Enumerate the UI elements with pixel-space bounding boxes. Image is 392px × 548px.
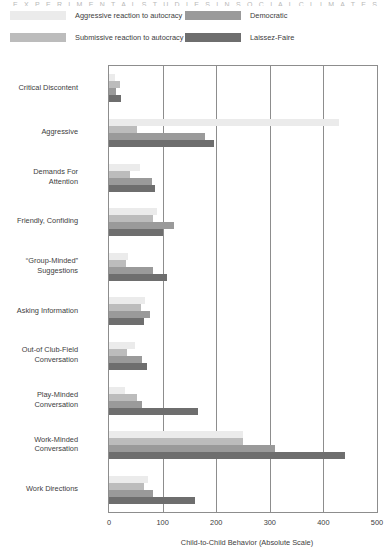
- bar-group: [109, 342, 377, 370]
- bar[interactable]: [109, 490, 153, 497]
- legend-item-laissez-faire[interactable]: Laissez-Faire: [185, 33, 294, 42]
- bar[interactable]: [109, 438, 243, 445]
- bar[interactable]: [109, 274, 167, 281]
- bar[interactable]: [109, 95, 121, 102]
- bar[interactable]: [109, 208, 157, 215]
- bar[interactable]: [109, 318, 144, 325]
- bar[interactable]: [109, 222, 174, 229]
- chart-plot-area: [108, 65, 378, 513]
- legend-item-aggressive-reaction[interactable]: Aggressive reaction to autocracy: [10, 11, 182, 20]
- bar[interactable]: [109, 74, 115, 81]
- bar[interactable]: [109, 304, 141, 311]
- category-label: Out-of Club-Field Conversation: [0, 345, 78, 364]
- category-label: Demands For Attention: [0, 167, 78, 186]
- bar[interactable]: [109, 356, 142, 363]
- chart-x-axis-title-text: Child-to-Child Behavior (Absolute Scale): [181, 538, 313, 547]
- x-tick-label-500: 500: [371, 518, 383, 527]
- bar[interactable]: [109, 311, 150, 318]
- bar[interactable]: [109, 267, 153, 274]
- bar[interactable]: [109, 349, 127, 356]
- bar[interactable]: [109, 342, 135, 349]
- bar[interactable]: [109, 401, 142, 408]
- bar[interactable]: [109, 476, 148, 483]
- bar[interactable]: [109, 133, 205, 140]
- bar[interactable]: [109, 229, 163, 236]
- chart-legend: Aggressive reaction to autocracy Submiss…: [0, 8, 392, 52]
- bar[interactable]: [109, 185, 155, 192]
- legend-item-submissive-reaction[interactable]: Submissive reaction to autocracy: [10, 33, 183, 42]
- chart-x-axis-title: Child-to-Child Behavior (Absolute Scale): [0, 538, 392, 547]
- bar[interactable]: [109, 387, 125, 394]
- bar[interactable]: [109, 178, 152, 185]
- bar[interactable]: [109, 88, 116, 95]
- legend-swatch-aggressive-reaction: [10, 11, 66, 20]
- bar[interactable]: [109, 394, 137, 401]
- bar[interactable]: [109, 81, 120, 88]
- bar[interactable]: [109, 171, 130, 178]
- bar[interactable]: [109, 126, 137, 133]
- category-label: Friendly, Confiding: [0, 216, 78, 226]
- bar-group: [109, 208, 377, 236]
- category-label: Critical Discontent: [0, 83, 78, 93]
- x-tick-label-400: 400: [317, 518, 329, 527]
- bar[interactable]: [109, 297, 145, 304]
- category-label: “Group-Minded” Suggestions: [0, 256, 78, 275]
- bar[interactable]: [109, 253, 128, 260]
- category-label: Work Directions: [0, 484, 78, 494]
- category-label: Play-Minded Conversation: [0, 390, 78, 409]
- legend-label-democratic: Democratic: [250, 11, 287, 20]
- bar[interactable]: [109, 260, 126, 267]
- x-tick-label-100: 100: [156, 518, 168, 527]
- chart-bars-layer: [109, 66, 377, 512]
- bar[interactable]: [109, 119, 339, 126]
- bar[interactable]: [109, 408, 198, 415]
- legend-swatch-laissez-faire: [185, 33, 241, 42]
- page-running-head: E X P E R I M E N T A L S T U D I E S I …: [0, 0, 392, 6]
- bar[interactable]: [109, 140, 214, 147]
- bar-group: [109, 297, 377, 325]
- chart-plot-wrapper: Critical DiscontentAggressiveDemands For…: [0, 60, 392, 520]
- category-label: Asking Information: [0, 306, 78, 316]
- x-tick-label-0: 0: [107, 518, 111, 527]
- legend-swatch-democratic: [185, 11, 241, 20]
- bar[interactable]: [109, 452, 345, 459]
- bar[interactable]: [109, 164, 140, 171]
- bar[interactable]: [109, 215, 153, 222]
- x-tick-label-300: 300: [264, 518, 276, 527]
- bar[interactable]: [109, 431, 243, 438]
- legend-label-aggressive-reaction: Aggressive reaction to autocracy: [75, 11, 182, 20]
- bar[interactable]: [109, 363, 147, 370]
- legend-label-submissive-reaction: Submissive reaction to autocracy: [75, 33, 183, 42]
- bar-group: [109, 431, 377, 459]
- legend-swatch-submissive-reaction: [10, 33, 66, 42]
- bar[interactable]: [109, 497, 195, 504]
- bar[interactable]: [109, 483, 144, 490]
- category-label: Work-Minded Conversation: [0, 435, 78, 454]
- bar[interactable]: [109, 445, 275, 452]
- bar-group: [109, 119, 377, 147]
- category-label: Aggressive: [0, 127, 78, 137]
- legend-item-democratic[interactable]: Democratic: [185, 11, 287, 20]
- bar-group: [109, 164, 377, 192]
- bar-group: [109, 253, 377, 281]
- x-tick-label-200: 200: [210, 518, 222, 527]
- bar-group: [109, 74, 377, 102]
- legend-label-laissez-faire: Laissez-Faire: [250, 33, 294, 42]
- bar-group: [109, 387, 377, 415]
- bar-group: [109, 476, 377, 504]
